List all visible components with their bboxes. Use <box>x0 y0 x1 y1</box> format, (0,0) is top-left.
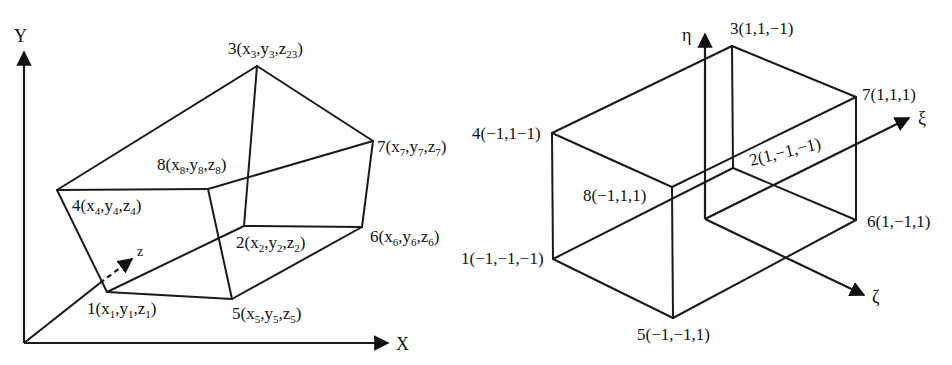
node-7-label: 7(x7,y7,z7) <box>377 137 446 158</box>
hexahedral-element-mapping-diagram: Y X z 3(x3,y3,z23) 7(x7,y7 <box>0 0 952 365</box>
cube-node-7-label: 7(1,1,1) <box>862 85 916 104</box>
node-4-label: 4(x4,y4,z4) <box>72 196 141 217</box>
xi-axis-label: ξ <box>918 108 926 128</box>
element-edges <box>57 66 373 299</box>
physical-element: Y X z 3(x3,y3,z23) 7(x7,y7 <box>14 26 446 354</box>
node-5-label: 5(x5,y5,z5) <box>232 304 301 325</box>
x-axis-label: X <box>396 334 409 354</box>
cube-node-2-label: 2(1,−1,−1) <box>747 134 822 170</box>
node-2-label: 2(x2,y2,z2) <box>236 233 305 254</box>
cube-node-5-label: 5(−1,−1,1) <box>637 325 710 344</box>
cube-node-3-label: 3(1,1,−1) <box>730 19 793 38</box>
cube-node-6-label: 6(1,−1,1) <box>867 212 930 231</box>
z-axis-label: z <box>137 244 143 259</box>
y-axis-label: Y <box>14 26 27 46</box>
zeta-axis-label: ζ <box>872 287 880 307</box>
zeta-axis <box>705 219 864 295</box>
natural-coordinate-cube: η ξ ζ 3(1,1,−1) 7(1,1,1) 4(−1,1−1 <box>461 19 930 344</box>
z-axis-dashed <box>100 259 132 283</box>
natural-node-labels: 3(1,1,−1) 7(1,1,1) 4(−1,1−1) 2(1,−1,−1) … <box>461 19 930 344</box>
node-8-label: 8(x8,y8,z8) <box>157 155 226 176</box>
node-3-label: 3(x3,y3,z23) <box>228 39 303 60</box>
cube-node-8-label: 8(−1,1,1) <box>583 186 646 205</box>
node-1-label: 1(x1,y1,z1) <box>87 299 156 320</box>
cube-node-1-label: 1(−1,−1,−1) <box>461 249 544 268</box>
cube-node-4-label: 4(−1,1−1) <box>472 124 541 143</box>
eta-axis-label: η <box>682 25 691 45</box>
node-6-label: 6(x6,y6,z6) <box>370 227 439 248</box>
